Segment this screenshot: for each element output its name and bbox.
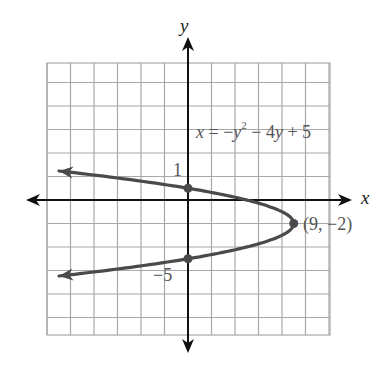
equation-rest1: − 4: [247, 122, 275, 142]
equation-var2: y: [275, 122, 283, 142]
y-axis-label: y: [180, 16, 188, 35]
marked-point: [289, 219, 298, 228]
axes: [26, 37, 352, 353]
parabola-graph: [0, 0, 384, 371]
marked-point: [184, 184, 193, 193]
equation-eq: = −: [204, 122, 233, 142]
equation-rest2: + 5: [283, 122, 311, 142]
x-axis-label: x: [361, 188, 369, 207]
equation-label: x = −y2 − 4y + 5: [196, 120, 311, 141]
y-tick-label-1: 1: [173, 161, 182, 179]
marked-point: [184, 254, 193, 263]
equation-lhs: x: [196, 122, 204, 142]
vertex-label: (9, −2): [303, 215, 352, 233]
y-tick-label-neg5: −5: [153, 266, 172, 284]
